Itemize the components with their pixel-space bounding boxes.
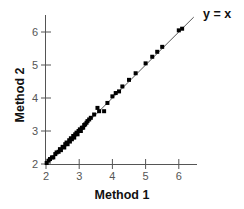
data-point	[92, 113, 96, 117]
data-point	[120, 84, 124, 88]
data-point	[127, 78, 131, 82]
data-point	[117, 89, 121, 93]
scatter-chart: 23456 23456 y = x Method 1 Method 2	[0, 0, 244, 209]
data-point	[155, 50, 159, 54]
data-point	[105, 101, 109, 105]
y-tick-label: 5	[32, 59, 38, 71]
data-point	[150, 55, 154, 59]
y-tick-label: 2	[32, 158, 38, 170]
identity-line-label: y = x	[203, 7, 231, 21]
x-tick-label: 2	[43, 170, 49, 182]
y-tick-label: 3	[32, 125, 38, 137]
x-axis-title: Method 1	[95, 188, 150, 202]
data-point	[144, 61, 148, 65]
x-tick-label: 5	[143, 170, 149, 182]
data-point	[134, 71, 138, 75]
x-tick-label: 4	[109, 170, 115, 182]
y-axis-ticks: 23456	[32, 26, 51, 170]
x-tick-label: 3	[76, 170, 82, 182]
y-tick-label: 6	[32, 26, 38, 38]
data-point	[97, 109, 101, 113]
data-point	[160, 45, 164, 49]
data-point	[102, 109, 106, 113]
data-point	[180, 27, 184, 31]
y-axis-title: Method 2	[13, 68, 27, 123]
data-points	[45, 27, 184, 165]
x-axis-ticks: 23456	[43, 159, 182, 182]
y-tick-label: 4	[32, 92, 38, 104]
x-tick-label: 6	[176, 170, 182, 182]
